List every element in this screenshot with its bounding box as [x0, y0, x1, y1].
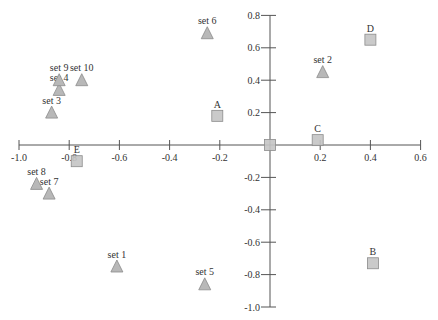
point-label: set 3	[42, 95, 61, 106]
point-label: C	[314, 123, 321, 134]
square-icon	[365, 34, 376, 45]
y-tick-label: 0.2	[248, 107, 261, 118]
point-label: set 9	[50, 62, 69, 73]
y-tick-label: 0.4	[248, 75, 261, 86]
square-marker: D	[365, 23, 376, 46]
y-tick-label: -0.6	[244, 237, 260, 248]
x-tick-label: 0.2	[314, 152, 327, 163]
x-tick-label: -0.2	[212, 152, 228, 163]
square-marker	[265, 140, 276, 151]
triangle-marker: set 10	[70, 62, 94, 86]
triangle-icon	[201, 27, 213, 39]
point-label: set 2	[313, 54, 332, 65]
x-tick-label: 0.6	[414, 152, 427, 163]
y-tick-label: 0.8	[248, 10, 261, 21]
y-tick-label: -1.0	[244, 302, 260, 313]
point-label: set 1	[108, 249, 127, 260]
x-tick-label: -0.4	[162, 152, 178, 163]
triangle-icon	[43, 187, 55, 199]
triangle-icon	[199, 278, 211, 290]
square-icon	[212, 110, 223, 121]
triangle-marker: set 5	[195, 266, 214, 290]
square-icon	[265, 140, 276, 151]
triangle-icon	[317, 66, 329, 78]
point-label: set 6	[198, 15, 217, 26]
point-label: D	[367, 23, 374, 34]
point-label: A	[214, 99, 222, 110]
x-tick-label: -1.0	[11, 152, 27, 163]
x-tick-label: 0.4	[364, 152, 377, 163]
square-marker: A	[212, 99, 223, 122]
y-tick-label: -0.8	[244, 269, 260, 280]
x-tick-label: -0.6	[111, 152, 127, 163]
square-icon	[312, 135, 323, 146]
point-label: set 5	[195, 266, 214, 277]
triangle-icon	[46, 106, 58, 118]
square-icon	[367, 258, 378, 269]
triangle-marker: set 3	[42, 95, 61, 119]
point-label: set 10	[70, 62, 94, 73]
scatter-chart: -1.0-0.8-0.6-0.4-0.20.20.40.60.80.60.40.…	[0, 0, 438, 320]
point-label: E	[74, 144, 80, 155]
square-icon	[71, 156, 82, 167]
triangle-icon	[76, 74, 88, 86]
y-tick-label: -0.2	[244, 172, 260, 183]
y-tick-label: 0.6	[248, 42, 261, 53]
triangle-marker: set 1	[108, 249, 127, 273]
triangle-marker: set 7	[40, 176, 59, 200]
square-marker: B	[367, 246, 378, 269]
square-marker: C	[312, 123, 323, 146]
triangle-marker: set 2	[313, 54, 332, 78]
point-label: set 8	[27, 166, 46, 177]
point-label: B	[370, 246, 377, 257]
square-marker: E	[71, 144, 82, 167]
triangle-marker: set 6	[198, 15, 217, 39]
triangle-icon	[111, 260, 123, 272]
y-tick-label: -0.4	[244, 204, 260, 215]
point-label: set 7	[40, 176, 59, 187]
